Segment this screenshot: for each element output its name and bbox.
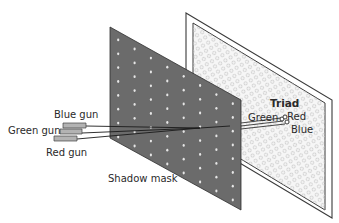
mask-hole — [232, 116, 234, 119]
mask-hole — [215, 135, 217, 138]
mask-hole — [166, 66, 168, 69]
mask-hole — [199, 98, 201, 101]
green-gun — [60, 129, 82, 134]
red-gun — [54, 136, 77, 141]
mask-hole — [199, 181, 201, 184]
mask-hole — [183, 130, 185, 133]
mask-hole — [199, 139, 201, 142]
mask-hole — [150, 140, 152, 143]
mask-hole — [215, 162, 217, 165]
mask-hole — [183, 116, 185, 119]
mask-hole — [166, 80, 168, 83]
mask-hole — [150, 57, 152, 60]
label-red-gun: Red gun — [46, 147, 87, 158]
label-triad-green: Green — [248, 112, 278, 123]
mask-hole — [183, 75, 185, 78]
mask-hole — [150, 71, 152, 74]
mask-hole — [232, 130, 234, 133]
mask-hole — [134, 89, 136, 92]
mask-hole — [117, 136, 119, 139]
mask-hole — [215, 93, 217, 96]
mask-hole — [117, 122, 119, 125]
mask-hole — [232, 185, 234, 188]
mask-hole — [150, 84, 152, 87]
label-triad: Triad — [270, 97, 299, 109]
mask-hole — [183, 89, 185, 92]
label-triad-blue: Blue — [291, 124, 313, 135]
mask-hole — [134, 75, 136, 78]
mask-hole — [134, 62, 136, 65]
mask-hole — [215, 121, 217, 124]
mask-hole — [166, 107, 168, 110]
mask-hole — [166, 149, 168, 152]
mask-hole — [117, 39, 119, 42]
mask-hole — [150, 112, 152, 115]
mask-hole — [183, 144, 185, 147]
mask-hole — [166, 163, 168, 166]
mask-hole — [166, 135, 168, 138]
mask-hole — [215, 176, 217, 179]
mask-hole — [166, 121, 168, 124]
mask-hole — [117, 80, 119, 83]
shadow-mask-diagram: Blue gun Green gun Red gun Shadow mask T… — [0, 0, 339, 223]
mask-hole — [117, 52, 119, 55]
mask-hole — [117, 66, 119, 69]
mask-hole — [150, 154, 152, 157]
mask-hole — [199, 84, 201, 87]
mask-hole — [232, 199, 234, 202]
label-shadow-mask: Shadow mask — [108, 173, 178, 184]
mask-hole — [183, 172, 185, 175]
label-green-gun: Green gun — [8, 125, 61, 136]
mask-hole — [232, 102, 234, 105]
mask-hole — [150, 98, 152, 101]
mask-hole — [199, 112, 201, 115]
label-triad-red: Red — [287, 111, 306, 122]
mask-hole — [117, 94, 119, 97]
mask-hole — [215, 148, 217, 151]
mask-hole — [232, 157, 234, 160]
mask-hole — [134, 103, 136, 106]
mask-hole — [134, 145, 136, 148]
mask-hole — [215, 190, 217, 193]
mask-hole — [134, 48, 136, 51]
mask-hole — [232, 144, 234, 147]
mask-hole — [134, 117, 136, 120]
mask-hole — [166, 94, 168, 97]
mask-hole — [199, 167, 201, 170]
mask-hole — [199, 153, 201, 156]
mask-hole — [117, 108, 119, 111]
blue-gun — [63, 123, 86, 128]
label-blue-gun: Blue gun — [54, 109, 98, 120]
mask-hole — [215, 107, 217, 110]
mask-hole — [183, 158, 185, 161]
mask-hole — [183, 103, 185, 106]
mask-hole — [232, 171, 234, 174]
